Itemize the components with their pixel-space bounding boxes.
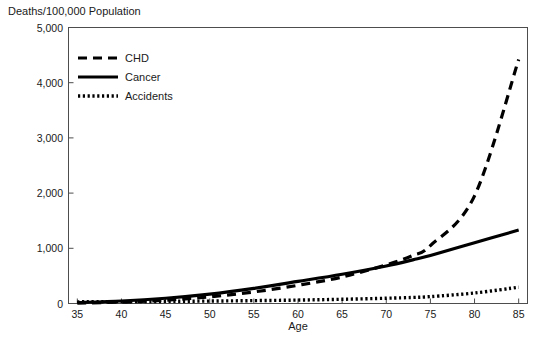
x-tick-label: 50 xyxy=(204,308,216,320)
series-line-cancer xyxy=(77,230,518,302)
chart-legend: CHDCancerAccidents xyxy=(78,52,173,102)
y-tick-label: 0 xyxy=(57,298,63,310)
x-tick-label: 45 xyxy=(160,308,172,320)
x-tick-label: 65 xyxy=(336,308,348,320)
y-axis-tick-marks xyxy=(69,83,74,249)
x-tick-label: 60 xyxy=(292,308,304,320)
chart-title: Deaths/100,000 Population xyxy=(8,5,141,17)
legend-label-accidents: Accidents xyxy=(125,90,173,102)
x-tick-label: 75 xyxy=(425,308,437,320)
x-tick-label: 55 xyxy=(248,308,260,320)
x-tick-label: 70 xyxy=(380,308,392,320)
mortality-line-chart: Deaths/100,000 Population 01,0002,0003,0… xyxy=(0,0,540,338)
legend-label-cancer: Cancer xyxy=(125,71,161,83)
x-tick-label: 40 xyxy=(116,308,128,320)
y-tick-label: 1,000 xyxy=(37,242,63,254)
y-tick-label: 3,000 xyxy=(37,132,63,144)
y-axis-tick-labels: 01,0002,0003,0004,0005,000 xyxy=(37,22,63,310)
x-tick-label: 85 xyxy=(513,308,525,320)
plot-area-frame xyxy=(69,28,528,304)
x-axis-title: Age xyxy=(288,320,308,332)
chart-container: Deaths/100,000 Population 01,0002,0003,0… xyxy=(0,0,540,338)
x-tick-label: 35 xyxy=(71,308,83,320)
x-axis-tick-labels: 3540455055606570758085 xyxy=(71,308,524,320)
x-tick-label: 80 xyxy=(469,308,481,320)
legend-label-chd: CHD xyxy=(125,52,149,64)
y-tick-label: 5,000 xyxy=(37,22,63,34)
y-tick-label: 4,000 xyxy=(37,77,63,89)
y-tick-label: 2,000 xyxy=(37,187,63,199)
